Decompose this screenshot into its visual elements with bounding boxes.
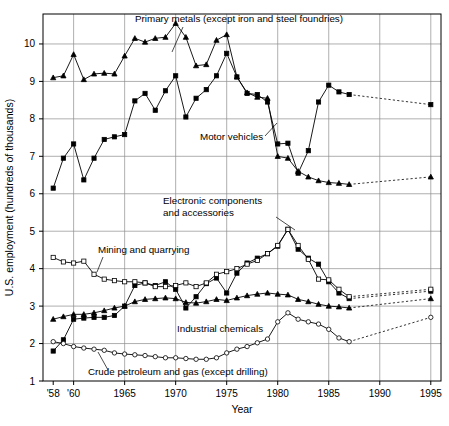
series-label: Electronic components bbox=[163, 195, 262, 206]
data-point bbox=[194, 295, 198, 299]
series-path-projected bbox=[349, 95, 431, 105]
data-point bbox=[194, 96, 198, 100]
data-point bbox=[429, 315, 433, 319]
data-point bbox=[347, 339, 351, 343]
data-point bbox=[286, 141, 290, 145]
data-point bbox=[235, 267, 239, 271]
data-point bbox=[347, 92, 351, 96]
data-point bbox=[153, 108, 157, 112]
data-point bbox=[224, 351, 228, 355]
series-path bbox=[53, 313, 349, 359]
data-point bbox=[174, 283, 178, 287]
data-point bbox=[286, 311, 290, 315]
series-path-projected bbox=[349, 317, 431, 341]
data-point bbox=[143, 91, 147, 95]
data-point bbox=[132, 36, 137, 41]
data-point bbox=[265, 337, 269, 341]
data-point bbox=[51, 255, 55, 259]
data-point bbox=[143, 281, 147, 285]
data-point bbox=[112, 135, 116, 139]
data-point bbox=[337, 90, 341, 94]
data-point bbox=[286, 227, 290, 231]
data-point bbox=[194, 285, 198, 289]
series-path-projected bbox=[349, 299, 431, 308]
y-tick-label: 1 bbox=[29, 376, 35, 387]
series-label: Industrial chemicals bbox=[177, 323, 263, 334]
data-point bbox=[276, 142, 280, 146]
data-point bbox=[71, 52, 76, 57]
leader-line bbox=[172, 27, 183, 52]
data-point bbox=[51, 349, 55, 353]
data-point bbox=[296, 297, 301, 302]
data-point bbox=[245, 262, 249, 266]
data-point bbox=[429, 103, 433, 107]
y-tick-label: 7 bbox=[29, 151, 35, 162]
x-tick-label: 1975 bbox=[216, 388, 239, 399]
data-point bbox=[112, 351, 116, 355]
data-point bbox=[265, 290, 270, 295]
data-point bbox=[72, 261, 76, 265]
data-point bbox=[112, 313, 116, 317]
data-point bbox=[327, 327, 331, 331]
data-point bbox=[92, 156, 96, 160]
data-point bbox=[184, 115, 188, 119]
data-point bbox=[102, 277, 106, 281]
series-1 bbox=[51, 51, 433, 190]
x-tick-label: 1970 bbox=[165, 388, 188, 399]
data-point bbox=[92, 315, 96, 319]
data-point bbox=[153, 354, 157, 358]
data-point bbox=[102, 137, 106, 141]
chart-canvas: '58'601965197019751980198519901995 12345… bbox=[0, 0, 449, 426]
employment-line-chart: '58'601965197019751980198519901995 12345… bbox=[0, 0, 449, 426]
data-point bbox=[225, 51, 229, 55]
data-point bbox=[204, 357, 208, 361]
x-tick-label: '60 bbox=[67, 388, 80, 399]
data-point bbox=[214, 356, 218, 360]
data-point bbox=[337, 336, 341, 340]
data-point bbox=[255, 258, 259, 262]
y-axis-title: U.S. employment (hundreds of thousands) bbox=[3, 99, 15, 296]
data-point bbox=[102, 315, 106, 319]
data-point bbox=[163, 285, 167, 289]
y-tick-label: 8 bbox=[29, 113, 35, 124]
data-point bbox=[347, 295, 351, 299]
x-tick-label: 1990 bbox=[369, 388, 392, 399]
data-point bbox=[428, 174, 433, 179]
x-tick-label: 1985 bbox=[318, 388, 341, 399]
data-point bbox=[214, 272, 218, 276]
data-point bbox=[296, 317, 300, 321]
data-point bbox=[316, 322, 320, 326]
x-axis-ticks: '58'601965197019751980198519901995 bbox=[47, 381, 443, 399]
series-3 bbox=[51, 227, 433, 299]
data-point bbox=[316, 100, 320, 104]
x-tick-label: 1965 bbox=[114, 388, 137, 399]
data-point bbox=[204, 281, 208, 285]
data-point bbox=[82, 259, 86, 263]
series-label: Mining and quarrying bbox=[98, 244, 190, 255]
data-point bbox=[163, 356, 167, 360]
series-path-projected bbox=[349, 289, 431, 296]
data-point bbox=[204, 88, 208, 92]
data-point bbox=[235, 347, 239, 351]
data-point bbox=[296, 171, 300, 175]
data-point bbox=[163, 89, 167, 93]
data-point bbox=[133, 99, 137, 103]
data-point bbox=[61, 260, 65, 264]
data-point bbox=[265, 252, 269, 256]
x-axis-title: Year bbox=[231, 403, 253, 415]
series-path bbox=[53, 23, 349, 184]
data-point bbox=[235, 271, 239, 275]
data-point bbox=[316, 262, 320, 266]
data-point bbox=[82, 346, 86, 350]
data-point bbox=[204, 62, 209, 67]
data-point bbox=[92, 272, 96, 276]
data-point bbox=[184, 356, 188, 360]
data-point bbox=[255, 341, 259, 345]
y-tick-label: 2 bbox=[29, 338, 35, 349]
data-point bbox=[133, 280, 137, 284]
y-tick-label: 5 bbox=[29, 226, 35, 237]
series-label: and accessories bbox=[163, 207, 234, 218]
data-point bbox=[306, 149, 310, 153]
data-point bbox=[153, 285, 157, 289]
data-point bbox=[143, 353, 147, 357]
